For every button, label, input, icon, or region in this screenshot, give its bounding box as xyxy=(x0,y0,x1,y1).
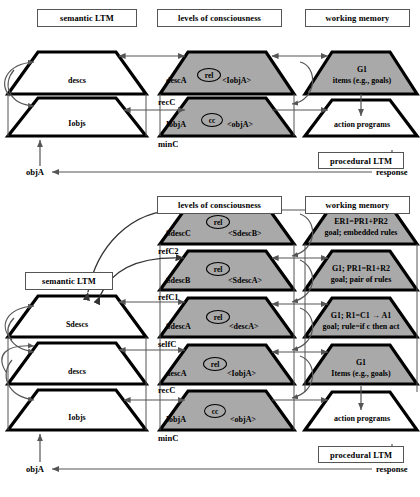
consciousness-descA-right-top: <IobjA> xyxy=(222,76,270,85)
consciousness-sdescA-ellipse: rel xyxy=(206,310,230,324)
consciousness-iobjA-left-top: IobjA xyxy=(166,120,202,129)
consciousness-rel-ellipse-top: rel xyxy=(197,68,221,82)
consciousness-sdescA-right: <descA> xyxy=(229,322,279,331)
wm-g1-line1-top: G1 xyxy=(316,65,408,75)
ltm-iobjs-label-top: Iobjs xyxy=(37,119,117,128)
response-label-top: response xyxy=(376,167,408,177)
ltm-descs-label-bottom: descs xyxy=(37,367,117,376)
level-label-recC-bottom: recC xyxy=(158,385,175,395)
wm-r1-line2: goal; rule=if c then act xyxy=(302,322,420,332)
wm-pr1-line2: goal; pair of rules xyxy=(306,275,416,285)
consciousness-sdescB-ellipse: rel xyxy=(206,262,230,276)
bottom-ltm-shapes xyxy=(8,296,146,430)
wm-er1-line1: ER1=PR1+PR2 xyxy=(306,217,416,227)
consciousness-sdescC-ellipse: rel xyxy=(206,215,230,229)
consciousness-sdescB-left: SdescB xyxy=(166,276,206,285)
wm-g1-line2-top: items (e.g., goals) xyxy=(311,76,413,86)
header-working-memory-bottom: working memory xyxy=(305,196,410,214)
level-label-minC-top: minC xyxy=(158,139,178,149)
header-levels-of-consciousness-bottom: levels of consciousness xyxy=(157,196,282,214)
header-levels-of-consciousness-top: levels of consciousness xyxy=(157,9,282,27)
consciousness-sdescA-left: SdescA xyxy=(166,322,206,331)
consciousness-descA-ellipse-bottom: rel xyxy=(203,357,227,371)
consciousness-iobjA-right-bottom: <objA> xyxy=(230,415,274,424)
header-semantic-ltm-top: semantic LTM xyxy=(37,9,137,27)
objA-label-bottom: objA xyxy=(26,464,44,474)
level-label-refC1: refC1 xyxy=(158,292,179,302)
consciousness-iobjA-ellipse-bottom: cc xyxy=(204,404,226,418)
objA-label-top: objA xyxy=(26,167,44,177)
consciousness-iobjA-right-top: <objA> xyxy=(227,120,271,129)
consciousness-sdescB-right: <SdescA> xyxy=(228,276,280,285)
header-semantic-ltm-bottom: semantic LTM xyxy=(25,272,113,290)
consciousness-cc-ellipse-top: cc xyxy=(201,113,223,127)
wm-er1-line2: goal; embedded rules xyxy=(304,228,418,238)
diagram-root: semantic LTM levels of consciousness wor… xyxy=(0,0,420,497)
level-label-minC-bottom: minC xyxy=(158,433,178,443)
response-label-bottom: response xyxy=(376,464,408,474)
level-label-refC2: refC2 xyxy=(158,246,179,256)
wm-g1-line2-bottom: Items (e.g., goals) xyxy=(304,369,418,379)
wm-action-programs-bottom: action programs xyxy=(316,414,408,423)
ltm-iobjs-label-bottom: Iobjs xyxy=(37,413,117,422)
consciousness-descA-right-bottom: <IobjA> xyxy=(227,369,275,378)
consciousness-sdescC-right: <SdescB> xyxy=(228,229,280,238)
header-working-memory-top: working memory xyxy=(305,9,410,27)
ltm-descs-label-top: descs xyxy=(37,76,117,85)
level-label-selfC: selfC xyxy=(158,339,176,349)
consciousness-descA-left-top: descA xyxy=(166,76,202,85)
ltm-sdescs-label-bottom: Sdescs xyxy=(37,320,117,329)
consciousness-iobjA-left-bottom: IobjA xyxy=(166,415,204,424)
consciousness-sdescC-left: SdescC xyxy=(166,229,206,238)
wm-r1-line1: G1; R1=C1 → A1 xyxy=(306,311,416,321)
level-label-recC-top: recC xyxy=(158,97,175,107)
wm-action-programs-top: action programs xyxy=(316,120,408,129)
wm-g1-line1-bottom: G1 xyxy=(306,358,416,368)
wm-pr1-line1: G1; PR1=R1+R2 xyxy=(306,264,416,274)
procedural-ltm-box-bottom: procedural LTM xyxy=(318,446,404,463)
consciousness-descA-left-bottom: descA xyxy=(166,369,204,378)
